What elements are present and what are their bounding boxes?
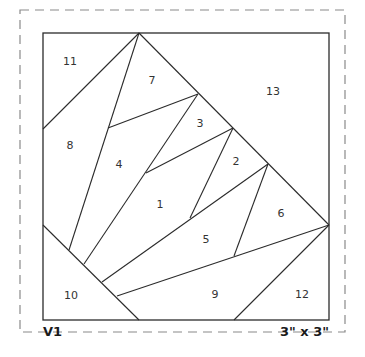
seam-line-4 xyxy=(84,94,198,264)
piece-label-7: 7 xyxy=(149,74,156,87)
piece-label-10: 10 xyxy=(64,289,78,302)
piece-label-1: 1 xyxy=(157,198,164,211)
piece-label-9: 9 xyxy=(212,288,219,301)
foundation-piecing-pattern: 1 2 3 4 5 6 7 8 9 10 11 12 13 V1 3" x 3" xyxy=(0,0,365,357)
seam-line-13 xyxy=(139,33,329,225)
seam-line-12 xyxy=(234,225,329,320)
piece-label-13: 13 xyxy=(266,85,280,98)
seam-line-3 xyxy=(146,128,233,173)
piece-label-6: 6 xyxy=(278,207,285,220)
piece-label-11: 11 xyxy=(63,55,77,68)
version-label: V1 xyxy=(43,324,62,339)
piece-labels: 1 2 3 4 5 6 7 8 9 10 11 12 13 xyxy=(63,55,309,302)
piece-label-2: 2 xyxy=(233,155,240,168)
seam-line-11 xyxy=(43,33,139,129)
size-label: 3" x 3" xyxy=(280,324,329,339)
piece-label-12: 12 xyxy=(295,288,309,301)
piece-label-3: 3 xyxy=(197,117,204,130)
seam-line-6 xyxy=(234,164,268,256)
piece-label-5: 5 xyxy=(203,233,210,246)
seam-line-9 xyxy=(117,225,329,296)
seam-lines xyxy=(43,33,329,320)
seam-line-7 xyxy=(108,94,198,128)
block-outline xyxy=(43,33,329,320)
seam-line-5 xyxy=(102,164,268,282)
seam-line-8 xyxy=(69,33,139,250)
seam-line-10 xyxy=(43,225,139,320)
piece-label-8: 8 xyxy=(67,139,74,152)
piece-label-4: 4 xyxy=(116,158,123,171)
